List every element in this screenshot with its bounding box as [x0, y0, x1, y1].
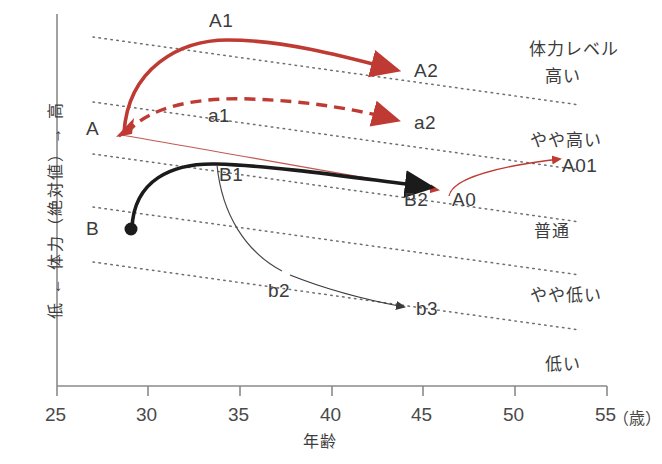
xaxis-title: 年齢	[303, 428, 337, 452]
label-A1: A1	[209, 10, 233, 32]
label-b3: b3	[416, 298, 438, 320]
label-A: A	[86, 118, 99, 140]
label-A0: A0	[452, 189, 476, 211]
curve-a1-to-a2	[124, 40, 396, 133]
label-B1: B1	[219, 164, 243, 186]
xtick-45: 45	[411, 404, 432, 426]
level-somewhat-low: やや低い	[530, 281, 602, 306]
level-somewhat-high: やや高い	[530, 126, 602, 151]
level-low: 低い	[545, 350, 581, 375]
figure-canvas: A1 A2 a1 a2 A B1 B2 A0 A01 B b2 b3 体力レベル…	[0, 0, 662, 464]
xtick-40: 40	[320, 404, 341, 426]
curve-a1dash-to-a2	[127, 99, 396, 133]
level-normal: 普通	[534, 217, 570, 242]
label-a2: a2	[414, 112, 436, 134]
axes	[57, 14, 607, 396]
point-b-marker	[125, 223, 138, 236]
xtick-35: 35	[228, 404, 249, 426]
label-A01: A01	[562, 155, 597, 177]
label-a1: a1	[208, 105, 230, 127]
xtick-50: 50	[503, 404, 524, 426]
xtick-30: 30	[136, 404, 157, 426]
level-header: 体力レベル	[529, 35, 619, 60]
curve-b3-segment	[290, 275, 404, 307]
yaxis-title: 低 ← 体力（絶対値）→ 高	[42, 60, 66, 360]
label-B: B	[86, 218, 99, 240]
label-B2: B2	[404, 189, 428, 211]
label-A2: A2	[414, 60, 438, 82]
xtick-25: 25	[45, 404, 66, 426]
xaxis-unit: （歳）	[613, 405, 661, 429]
level-high: 高い	[545, 62, 581, 87]
band-boundaries	[93, 37, 580, 330]
label-b2: b2	[268, 280, 290, 302]
